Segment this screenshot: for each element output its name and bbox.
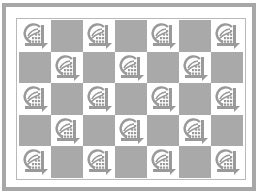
gray-tile — [51, 146, 83, 178]
gray-tile — [179, 146, 211, 178]
gray-tile — [51, 20, 83, 52]
logo-tile — [147, 83, 179, 115]
globe-grid-logo-icon — [118, 54, 145, 81]
globe-grid-logo-icon — [86, 22, 113, 49]
logo-tile — [147, 146, 179, 178]
logo-tile — [19, 20, 51, 52]
gray-tile — [179, 83, 211, 115]
globe-grid-logo-icon — [54, 117, 81, 144]
checkerboard-grid — [19, 20, 243, 178]
globe-grid-logo-icon — [86, 85, 113, 112]
globe-grid-logo-icon — [22, 148, 49, 175]
globe-grid-logo-icon — [214, 148, 241, 175]
gray-tile — [115, 20, 147, 52]
gray-tile — [115, 146, 147, 178]
logo-tile — [211, 20, 243, 52]
gray-tile — [211, 52, 243, 84]
gray-tile — [83, 115, 115, 147]
globe-grid-logo-icon — [22, 85, 49, 112]
logo-tile — [179, 115, 211, 147]
logo-tile — [83, 146, 115, 178]
globe-grid-logo-icon — [150, 85, 177, 112]
gray-tile — [147, 52, 179, 84]
gray-tile — [147, 115, 179, 147]
logo-tile — [83, 20, 115, 52]
globe-grid-logo-icon — [214, 22, 241, 49]
logo-tile — [211, 146, 243, 178]
globe-grid-logo-icon — [118, 117, 145, 144]
globe-grid-logo-icon — [54, 54, 81, 81]
gray-tile — [179, 20, 211, 52]
globe-grid-logo-icon — [150, 148, 177, 175]
gray-tile — [211, 115, 243, 147]
globe-grid-logo-icon — [86, 148, 113, 175]
logo-tile — [19, 83, 51, 115]
gray-tile — [115, 83, 147, 115]
logo-tile — [211, 83, 243, 115]
globe-grid-logo-icon — [150, 22, 177, 49]
logo-tile — [147, 20, 179, 52]
logo-tile — [83, 83, 115, 115]
logo-tile — [115, 115, 147, 147]
globe-grid-logo-icon — [214, 85, 241, 112]
globe-grid-logo-icon — [182, 117, 209, 144]
logo-tile — [179, 52, 211, 84]
gray-tile — [19, 52, 51, 84]
logo-tile — [115, 52, 147, 84]
gray-tile — [19, 115, 51, 147]
gray-tile — [83, 52, 115, 84]
logo-tile — [51, 52, 83, 84]
logo-tile — [51, 115, 83, 147]
globe-grid-logo-icon — [182, 54, 209, 81]
globe-grid-logo-icon — [22, 22, 49, 49]
gray-tile — [51, 83, 83, 115]
logo-tile — [19, 146, 51, 178]
